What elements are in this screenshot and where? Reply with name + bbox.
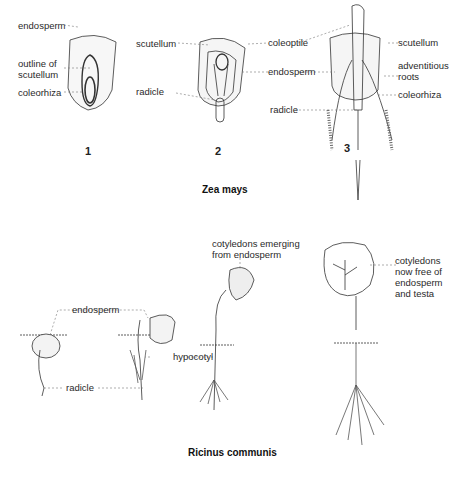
zea3-coleorhiza-label: coleorhiza (398, 89, 441, 100)
ricinus-stage2-drawing (118, 315, 175, 400)
zea2-radicle-label: radicle (136, 86, 164, 97)
zea-stage1-drawing (68, 35, 116, 110)
zea-stage2-number: 2 (215, 145, 221, 157)
ricinus-cotyledons-emerging-label: cotyledons emerging from endosperm (212, 238, 300, 260)
ricinus-hypocotyl-label: hypocotyl (173, 351, 213, 362)
zea1-endosperm-label: endosperm (18, 20, 66, 31)
zea1-coleorhiza-label: coleorhiza (18, 87, 61, 98)
ricinus-stage4-drawing (324, 242, 384, 445)
zea2-coleoptile-label: coleoptile (268, 37, 308, 48)
zea-stage1-number: 1 (85, 145, 91, 157)
ricinus-stage1-drawing (20, 334, 68, 396)
ricinus-endosperm-label: endosperm (72, 304, 120, 315)
zea-stage3-drawing (328, 5, 392, 200)
zea3-radicle-label: radicle (270, 104, 298, 115)
zea1-outline-of-scutellum-label: outline of scutellum (18, 58, 58, 80)
zea-mays-caption: Zea mays (202, 184, 248, 195)
ricinus-radicle-label: radicle (66, 382, 94, 393)
ricinus-communis-caption: Ricinus communis (188, 447, 277, 458)
zea3-adventitious-roots-label: adventitious roots (398, 60, 449, 82)
ricinus-cotyledons-free-label: cotyledons now free of endosperm and tes… (395, 255, 443, 299)
ricinus-stage3-drawing (200, 268, 254, 410)
zea3-scutellum-label: scutellum (398, 37, 438, 48)
zea-stage3-number: 3 (344, 142, 350, 154)
zea-stage2-drawing (198, 38, 245, 122)
zea2-endosperm-label: endosperm (268, 66, 316, 77)
zea2-scutellum-label: scutellum (136, 38, 176, 49)
